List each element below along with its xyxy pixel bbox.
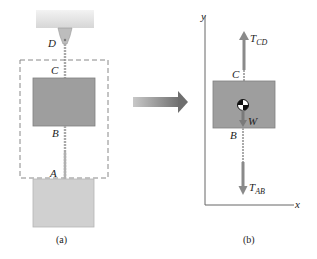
y-axis-label: y	[200, 10, 206, 22]
label-b-a: B	[52, 127, 59, 139]
center-of-gravity-icon	[238, 100, 249, 111]
hook-d	[58, 28, 72, 44]
weight-label: W	[248, 115, 258, 127]
ceiling-support	[36, 10, 94, 28]
caption-a: (a)	[56, 234, 67, 246]
force-tab-arrow	[239, 162, 248, 195]
force-tcd-label: TCD	[250, 32, 267, 47]
free-body-diagram: D C B A (a) y x TCD C	[0, 0, 317, 259]
block-lower	[33, 179, 94, 227]
label-b-b: B	[230, 129, 237, 141]
label-c-a: C	[51, 64, 59, 76]
figure-a: D C B A (a)	[20, 10, 108, 246]
label-c-b: C	[232, 68, 240, 80]
x-axis-label: x	[294, 198, 300, 210]
force-tab-label: TAB	[249, 181, 265, 196]
block-upper	[33, 78, 95, 126]
caption-b: (b)	[243, 234, 255, 246]
figure-b: y x TCD C W B TAB	[200, 10, 300, 246]
force-tcd-arrow	[239, 31, 249, 81]
transition-arrow-icon	[133, 91, 188, 113]
hook-pin	[64, 39, 66, 41]
label-a: A	[49, 167, 57, 179]
label-d: D	[47, 37, 56, 49]
